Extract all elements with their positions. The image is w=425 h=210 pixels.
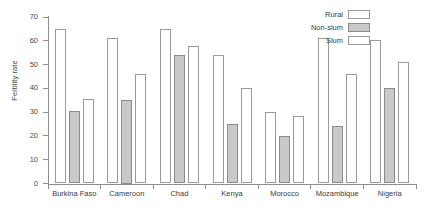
bar bbox=[227, 124, 238, 183]
legend-item: Rural bbox=[262, 8, 370, 21]
bar bbox=[293, 116, 304, 184]
x-axis-line bbox=[48, 184, 417, 185]
y-axis-tick bbox=[43, 64, 48, 65]
x-axis-separator-tick bbox=[310, 184, 311, 189]
bar bbox=[160, 29, 171, 184]
y-axis-tick-label: 60 bbox=[0, 37, 38, 45]
legend-swatch bbox=[348, 36, 370, 45]
y-axis-tick-label: 70 bbox=[0, 13, 38, 21]
y-axis-tick-label: 30 bbox=[0, 108, 38, 116]
x-axis-separator-tick bbox=[363, 184, 364, 189]
bar bbox=[135, 74, 146, 183]
bar bbox=[83, 99, 94, 183]
legend-item-label: Slum bbox=[326, 37, 343, 45]
x-axis-separator-tick bbox=[258, 184, 259, 189]
y-axis-tick bbox=[43, 112, 48, 113]
fertility-rate-bar-chart: Fertility rate 010203040506070 Burkina F… bbox=[0, 0, 425, 210]
legend-swatch bbox=[348, 23, 370, 32]
x-axis-group-label: Chad bbox=[153, 190, 206, 198]
bar bbox=[346, 74, 357, 183]
bar bbox=[265, 112, 276, 183]
x-axis-group-label: Cameroon bbox=[101, 190, 154, 198]
bar bbox=[174, 55, 185, 183]
x-axis-separator-tick bbox=[153, 184, 154, 189]
x-axis-group-label: Nigeria bbox=[363, 190, 416, 198]
legend-item-label: Rural bbox=[325, 11, 343, 19]
y-axis-tick-label: 50 bbox=[0, 61, 38, 69]
x-axis-separator-tick bbox=[100, 184, 101, 189]
y-axis-tick bbox=[43, 40, 48, 41]
y-axis-tick-label: 20 bbox=[0, 132, 38, 140]
bar bbox=[107, 38, 118, 183]
y-axis-tick bbox=[43, 88, 48, 89]
y-axis-tick bbox=[43, 159, 48, 160]
bar bbox=[69, 111, 80, 184]
y-axis-tick-label: 40 bbox=[0, 84, 38, 92]
y-axis-tick-label: 10 bbox=[0, 156, 38, 164]
x-axis-group-label: Burkina Faso bbox=[48, 190, 101, 198]
x-axis-separator-tick bbox=[205, 184, 206, 189]
bar bbox=[55, 29, 66, 184]
legend-item-label: Non-slum bbox=[311, 24, 343, 32]
legend-item: Non-slum bbox=[262, 21, 370, 34]
legend-item: Slum bbox=[262, 34, 370, 47]
x-axis-group-label: Mozambique bbox=[311, 190, 364, 198]
y-axis-tick-label: 0 bbox=[0, 180, 38, 188]
bar bbox=[279, 136, 290, 184]
bar bbox=[384, 88, 395, 183]
y-axis-tick bbox=[43, 135, 48, 136]
x-axis-group-label: Kenya bbox=[206, 190, 259, 198]
bar bbox=[318, 38, 329, 183]
legend: RuralNon-slumSlum bbox=[262, 8, 370, 47]
bar bbox=[398, 62, 409, 183]
bar bbox=[188, 46, 199, 184]
bar bbox=[213, 55, 224, 183]
bar bbox=[241, 88, 252, 183]
x-axis-separator-tick bbox=[48, 184, 49, 189]
y-axis-tick bbox=[43, 17, 48, 18]
bar bbox=[370, 40, 381, 184]
bar bbox=[332, 126, 343, 183]
x-axis-group-label: Morocco bbox=[258, 190, 311, 198]
legend-swatch bbox=[348, 10, 370, 19]
bar bbox=[121, 100, 132, 183]
x-axis-separator-tick bbox=[416, 184, 417, 189]
